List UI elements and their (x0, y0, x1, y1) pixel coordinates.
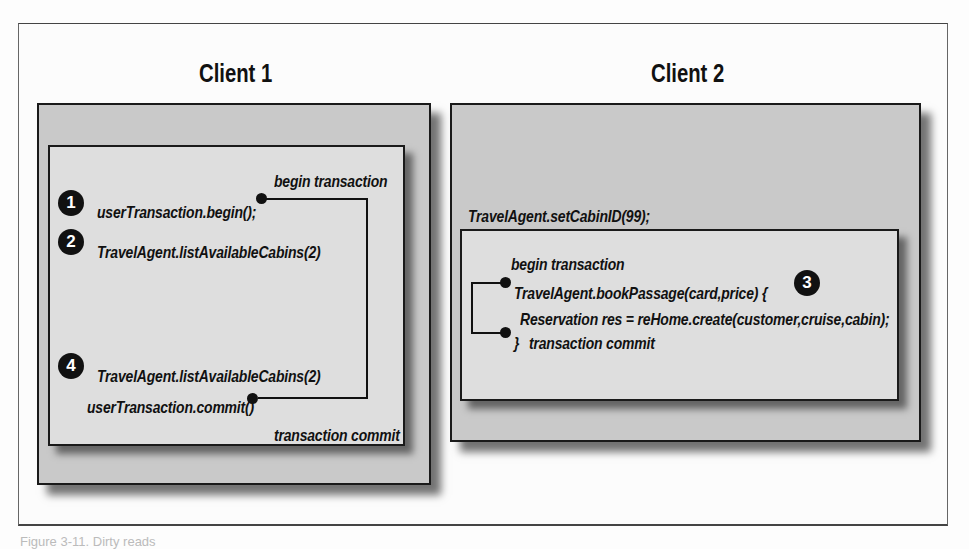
figure-caption: Figure 3-11. Dirty reads (20, 534, 156, 549)
connector-line (366, 198, 368, 399)
client-1-list-cabins-code-2: TravelAgent.listAvailableCabins(2) (97, 367, 320, 387)
client-1-begin-code: userTransaction.begin(); (97, 203, 256, 223)
client-2-set-cabin-code: TravelAgent.setCabinID(99); (468, 207, 650, 227)
client-1-list-cabins-code: TravelAgent.listAvailableCabins(2) (97, 243, 320, 263)
step-badge-4: 4 (58, 353, 84, 379)
begin-dot (500, 277, 511, 288)
step-badge-2: 2 (58, 229, 84, 255)
commit-dot (247, 393, 258, 404)
client-1-commit-label: transaction commit (274, 426, 400, 446)
connector-line (264, 198, 368, 200)
client-2-close-brace: } (514, 334, 519, 354)
client-2-begin-label: begin transaction (511, 255, 624, 275)
step-badge-3: 3 (794, 270, 820, 296)
client-2-create-code: Reservation res = reHome.create(customer… (520, 310, 889, 330)
connector-line (471, 282, 473, 334)
commit-dot (500, 327, 511, 338)
client-1-title: Client 1 (199, 58, 272, 89)
step-badge-1: 1 (58, 190, 84, 216)
connector-line (258, 397, 368, 399)
client-2-book-passage-code: TravelAgent.bookPassage(card,price) { (514, 284, 767, 304)
client-2-commit-label: transaction commit (529, 334, 655, 354)
client-1-commit-code: userTransaction.commit() (87, 398, 254, 418)
client-2-title: Client 2 (651, 58, 724, 89)
client-1-begin-label: begin transaction (274, 172, 387, 192)
